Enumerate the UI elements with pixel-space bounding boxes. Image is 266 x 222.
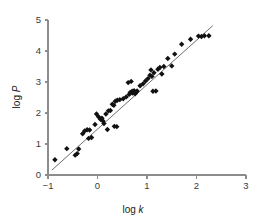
regression-line-segment bbox=[52, 26, 213, 170]
y-axis-tick-label: 5 bbox=[36, 14, 41, 25]
data-point-marker bbox=[92, 122, 97, 127]
y-axis-tick-label: 2 bbox=[36, 107, 41, 118]
x-axis-title-prefix: log bbox=[122, 204, 138, 215]
x-axis-tick-label: 0 bbox=[95, 180, 100, 191]
chart-canvas: 012345−10123 log k log P bbox=[0, 0, 266, 222]
x-axis-tick-label: 1 bbox=[144, 180, 149, 191]
y-axis-title-prefix: log bbox=[11, 92, 22, 108]
axis-tick-labels-group: 012345−10123 bbox=[36, 14, 249, 191]
data-point-marker bbox=[52, 157, 57, 162]
y-axis-tick-label: 0 bbox=[36, 169, 41, 180]
data-point-marker bbox=[206, 33, 211, 38]
x-axis-tick-label: −1 bbox=[43, 180, 54, 191]
regression-line bbox=[52, 26, 213, 170]
x-axis-tick-label: 3 bbox=[243, 180, 248, 191]
x-axis-title-variable: k bbox=[139, 204, 145, 215]
x-axis-title: log k bbox=[122, 204, 144, 215]
scatter-plot-figure: 012345−10123 log k log P bbox=[0, 0, 266, 222]
data-point-marker bbox=[188, 37, 193, 42]
data-point-marker bbox=[165, 56, 170, 61]
x-axis-tick-label: 2 bbox=[194, 180, 199, 191]
data-point-marker bbox=[172, 51, 177, 56]
data-point-marker bbox=[64, 146, 69, 151]
y-axis-tick-label: 1 bbox=[36, 138, 41, 149]
y-axis-title: log P bbox=[11, 85, 22, 108]
data-point-marker bbox=[179, 41, 184, 46]
y-axis-tick-label: 3 bbox=[36, 76, 41, 87]
data-point-marker bbox=[159, 71, 164, 76]
y-axis-title-variable: P bbox=[11, 85, 22, 92]
y-axis-tick-label: 4 bbox=[36, 45, 41, 56]
y-axis-title-text: log P bbox=[11, 85, 22, 108]
data-point-marker bbox=[105, 127, 110, 132]
x-axis-title-text: log k bbox=[122, 204, 144, 215]
